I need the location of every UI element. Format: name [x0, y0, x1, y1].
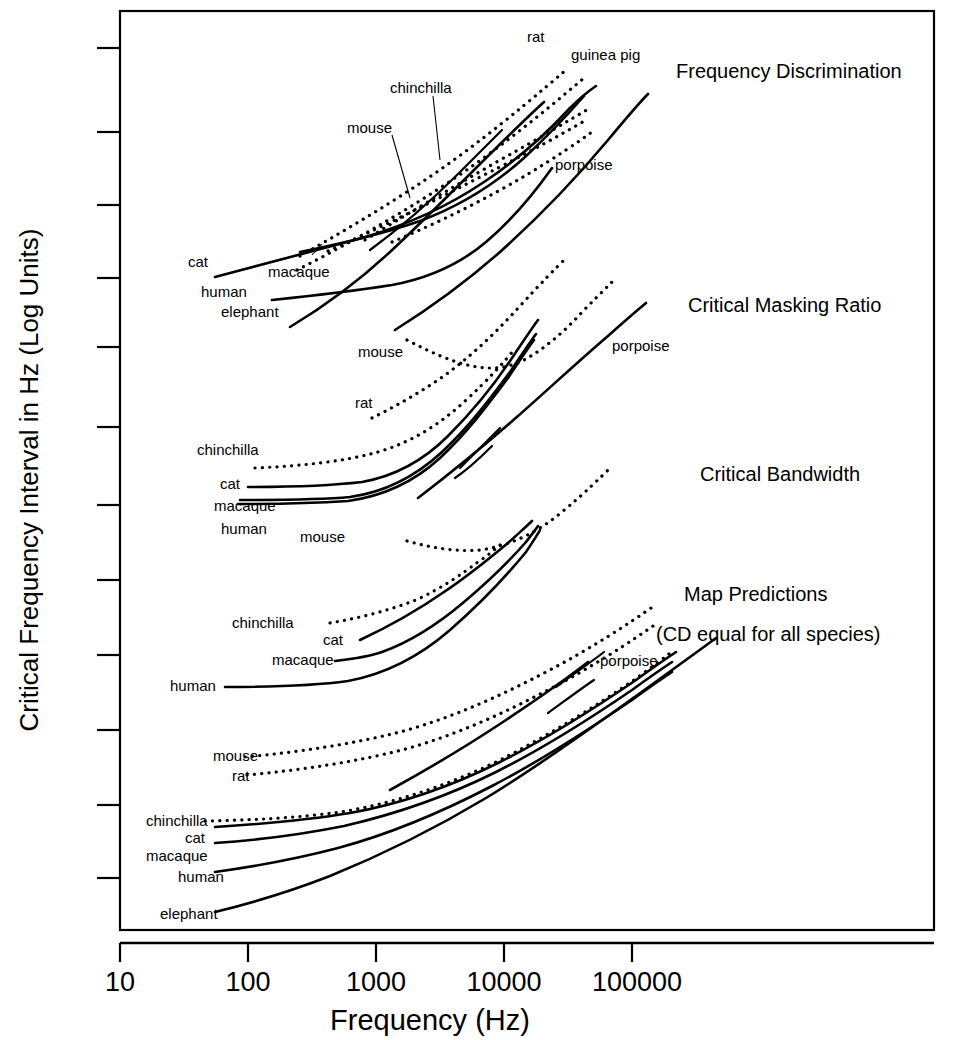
label-p1-mouse: mouse — [347, 119, 392, 136]
x-tick-label-10000: 10000 — [466, 967, 541, 997]
label-p3-macaque: macaque — [272, 651, 334, 668]
label-p2-rat: rat — [355, 394, 373, 411]
curve-p2-human — [238, 340, 534, 504]
label-p1-guinea-pig: guinea pig — [571, 46, 640, 63]
curve-p4-rat — [247, 624, 656, 775]
label-p4-elephant: elephant — [160, 905, 218, 922]
label-p2-macaque: macaque — [214, 497, 276, 514]
curve-p2-porpoise — [418, 303, 646, 498]
x-tick-label-1000: 1000 — [346, 967, 406, 997]
label-p1-macaque: macaque — [268, 263, 330, 280]
figure-container: 10 100 1000 10000 100000 Frequency (Hz) … — [0, 0, 956, 1040]
leader-p1-mouse — [392, 135, 410, 198]
curve-p3-cat — [360, 521, 532, 640]
label-p1-elephant: elephant — [221, 303, 279, 320]
curve-p4-segment-b — [556, 652, 604, 687]
x-axis-title: Frequency (Hz) — [330, 1004, 530, 1036]
leader-p1-chinchilla — [433, 96, 440, 160]
x-axis-tick-labels: 10 100 1000 10000 100000 — [105, 967, 682, 997]
label-p4-porpoise: porpoise — [600, 652, 658, 669]
panel-critical-masking-ratio: Critical Masking Ratio mouse rat porpois… — [197, 258, 881, 537]
label-p3-cat: cat — [323, 631, 344, 648]
label-p3-human: human — [170, 677, 216, 694]
curve-p4-macaque — [215, 662, 672, 843]
label-p1-human: human — [201, 283, 247, 300]
panel-title-map-predictions: Map Predictions — [684, 583, 827, 605]
label-p1-chinchilla: chinchilla — [390, 79, 452, 96]
curve-p1-macaque — [300, 96, 584, 252]
label-p2-porpoise: porpoise — [612, 337, 670, 354]
label-p2-cat: cat — [220, 475, 241, 492]
label-p3-chinchilla: chinchilla — [232, 614, 294, 631]
label-p4-human: human — [178, 868, 224, 885]
panel-map-predictions: Map Predictions (CD equal for all specie… — [146, 583, 881, 922]
label-p4-macaque: macaque — [146, 847, 208, 864]
y-axis-ticks — [97, 48, 120, 878]
label-p1-cat: cat — [188, 253, 209, 270]
curve-p4-cat — [215, 652, 676, 827]
curve-p1-dotted-lower — [392, 132, 592, 242]
x-axis — [120, 943, 934, 962]
panel-frequency-discrimination: Frequency Discrimination cat macaque hum… — [188, 28, 902, 330]
x-tick-label-100: 100 — [225, 967, 270, 997]
label-p3-mouse: mouse — [300, 528, 345, 545]
label-p2-human: human — [221, 520, 267, 537]
curve-p1-guinea-pig — [297, 78, 584, 270]
label-p4-mouse: mouse — [213, 747, 258, 764]
x-tick-label-10: 10 — [105, 967, 135, 997]
curve-p4-porpoise — [390, 662, 588, 790]
label-p2-chinchilla: chinchilla — [197, 441, 259, 458]
panel-title-frequency-discrimination: Frequency Discrimination — [676, 60, 902, 82]
curve-p4-elephant — [215, 638, 716, 912]
label-p1-porpoise: porpoise — [555, 156, 613, 173]
curve-p2-segment-a — [455, 446, 492, 478]
panel-title-critical-masking-ratio: Critical Masking Ratio — [688, 294, 881, 316]
panel-subtitle-map-predictions: (CD equal for all species) — [656, 623, 881, 645]
x-tick-label-100000: 100000 — [592, 967, 682, 997]
label-p4-cat: cat — [185, 829, 206, 846]
y-axis-title: Critical Frequency Interval in Hz (Log U… — [14, 229, 44, 732]
label-p2-mouse: mouse — [358, 343, 403, 360]
curve-p3-mouse — [407, 466, 612, 551]
panel-title-critical-bandwidth: Critical Bandwidth — [700, 463, 860, 485]
label-p4-rat: rat — [232, 767, 250, 784]
label-p1-rat: rat — [527, 28, 545, 45]
curve-p4-chinchilla — [205, 650, 674, 821]
label-p4-chinchilla: chinchilla — [146, 812, 208, 829]
chart-svg: 10 100 1000 10000 100000 Frequency (Hz) … — [0, 0, 956, 1040]
